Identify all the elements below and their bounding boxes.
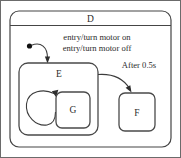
state-d-label: D [87,14,94,24]
state-e-label: E [56,69,62,79]
transition-e-to-f-label: After 0.5s [122,60,157,70]
diagram-canvas: D entry/turn motor on entry/turn motor o… [0,0,181,158]
entry-action-line-2: entry/turn motor off [63,43,132,53]
state-g-label: G [70,105,77,115]
entry-action-line-1: entry/turn motor on [63,32,131,42]
initial-state-dot[interactable] [27,43,32,48]
state-machine-diagram: D entry/turn motor on entry/turn motor o… [0,0,181,158]
state-f-label: F [134,108,139,118]
